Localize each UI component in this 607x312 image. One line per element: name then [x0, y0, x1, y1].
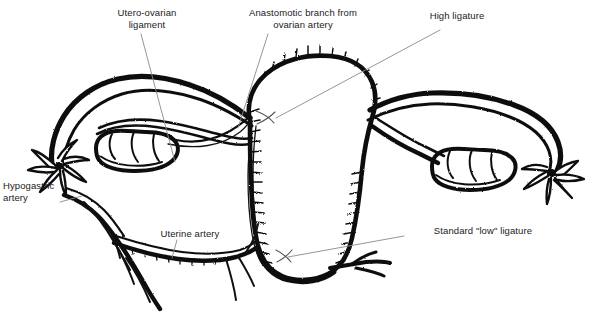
right-fimbriae	[522, 161, 584, 204]
left-ovary	[96, 131, 178, 171]
label-utero-ovarian-ligament: Utero-ovarian ligament	[91, 7, 203, 30]
hypogastric-artery-vessel	[64, 188, 160, 309]
label-hypogastric-artery: Hypogastric artery	[3, 180, 83, 203]
label-anastomotic-branch: Anastomotic branch from ovarian artery	[242, 7, 364, 30]
uterus-anatomy-drawing	[0, 0, 607, 312]
anatomical-figure: Utero-ovarian ligament Anastomotic branc…	[0, 0, 607, 312]
label-standard-low-ligature: Standard "low" ligature	[408, 225, 558, 237]
uterus-body	[249, 46, 380, 282]
label-uterine-artery: Uterine artery	[145, 228, 235, 240]
leader-uterine	[172, 240, 177, 258]
label-high-ligature: High ligature	[412, 10, 502, 22]
